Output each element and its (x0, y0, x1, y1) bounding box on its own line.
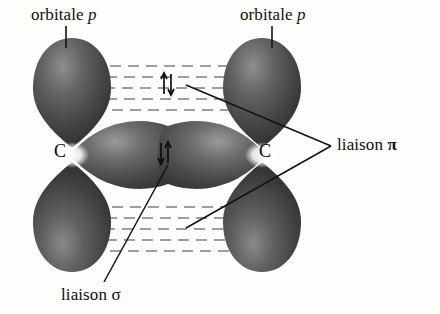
label-liaison-pi-symbol: π (387, 135, 396, 154)
label-orbitale-p-right-italic: p (297, 5, 306, 24)
label-liaison-sigma-text: liaison (61, 285, 111, 304)
orbital-diagram-figure: orbitale p orbitale p liaison π liaison … (0, 0, 440, 314)
atom-label-carbon-right: C (259, 142, 271, 160)
label-liaison-pi-text: liaison (337, 135, 387, 154)
label-liaison-sigma-symbol: σ (111, 285, 120, 304)
label-orbitale-p-left-italic: p (88, 5, 97, 24)
label-liaison-pi: liaison π (337, 136, 397, 153)
label-orbitale-p-left-text: orbitale (31, 5, 88, 24)
atom-label-carbon-left: C (54, 142, 66, 160)
label-liaison-sigma: liaison σ (61, 286, 121, 303)
label-orbitale-p-right: orbitale p (240, 6, 306, 23)
label-orbitale-p-right-text: orbitale (240, 5, 297, 24)
label-orbitale-p-left: orbitale p (31, 6, 97, 23)
